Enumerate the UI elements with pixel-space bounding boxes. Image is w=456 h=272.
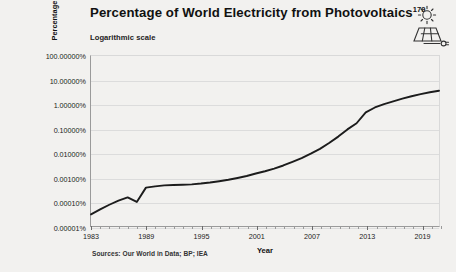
x-axis-minor-tick bbox=[284, 226, 285, 229]
y-axis-tick-label: 0.10000% bbox=[54, 125, 86, 134]
x-axis-minor-tick bbox=[321, 226, 322, 229]
x-axis-minor-tick bbox=[330, 226, 331, 229]
x-axis-major-tick bbox=[202, 226, 203, 230]
x-axis-minor-tick bbox=[358, 226, 359, 229]
x-axis-minor-tick bbox=[211, 226, 212, 229]
x-axis-minor-tick bbox=[109, 226, 110, 229]
x-axis-minor-tick bbox=[100, 226, 101, 229]
x-axis-minor-tick bbox=[183, 226, 184, 229]
x-axis-minor-tick bbox=[119, 226, 120, 229]
plot-area: Percentage of world electricity generati… bbox=[90, 55, 440, 227]
y-axis-tick-label: 100.00000% bbox=[46, 52, 86, 61]
x-axis-minor-tick bbox=[266, 226, 267, 229]
x-axis-minor-tick bbox=[340, 226, 341, 229]
x-axis-minor-tick bbox=[349, 226, 350, 229]
x-axis-tick-label: 1995 bbox=[194, 232, 210, 241]
x-axis-minor-tick bbox=[395, 226, 396, 229]
gridline bbox=[91, 228, 439, 229]
y-axis-tick-label: 1.00000% bbox=[54, 101, 86, 110]
x-axis-minor-tick bbox=[413, 226, 414, 229]
solar-panel-sun-icon bbox=[400, 3, 452, 48]
series-line-chart bbox=[91, 56, 439, 226]
y-axis-tick-label: 0.00010% bbox=[54, 199, 86, 208]
x-axis-minor-tick bbox=[137, 226, 138, 229]
x-axis-major-tick bbox=[257, 226, 258, 230]
x-axis-tick-label: 2019 bbox=[415, 232, 431, 241]
x-axis-minor-tick bbox=[128, 226, 129, 229]
x-axis-minor-tick bbox=[275, 226, 276, 229]
x-axis-minor-tick bbox=[404, 226, 405, 229]
x-axis-tick-label: 2007 bbox=[304, 232, 320, 241]
x-axis-minor-tick bbox=[377, 226, 378, 229]
page-title-text: Percentage of World Electricity from Pho… bbox=[90, 5, 413, 20]
x-axis-minor-tick bbox=[174, 226, 175, 229]
x-axis-minor-tick bbox=[294, 226, 295, 229]
x-axis-minor-tick bbox=[386, 226, 387, 229]
series-line bbox=[91, 91, 439, 215]
x-axis-major-tick bbox=[91, 226, 92, 230]
y-axis-tick-label: 0.00001% bbox=[54, 224, 86, 233]
y-axis-tick-label: 0.00100% bbox=[54, 174, 86, 183]
x-axis-major-tick bbox=[146, 226, 147, 230]
y-axis-tick-label: 0.01000% bbox=[54, 150, 86, 159]
page-title: Percentage of World Electricity from Pho… bbox=[90, 6, 400, 21]
x-axis-minor-tick bbox=[432, 226, 433, 229]
x-axis-minor-tick bbox=[229, 226, 230, 229]
chart-subtitle: Logarithmic scale bbox=[90, 33, 155, 42]
x-axis-major-tick bbox=[367, 226, 368, 230]
y-axis-tick-label: 10.00000% bbox=[50, 76, 86, 85]
sources-note: Sources: Our World in Data; BP; IEA bbox=[92, 250, 208, 257]
y-axis-title: Percentage of world electricity generati… bbox=[47, 0, 61, 53]
x-axis-tick-label: 1989 bbox=[138, 232, 154, 241]
x-axis-minor-tick bbox=[155, 226, 156, 229]
x-axis-major-tick bbox=[312, 226, 313, 230]
x-axis-minor-tick bbox=[441, 226, 442, 229]
x-axis-minor-tick bbox=[238, 226, 239, 229]
x-axis-minor-tick bbox=[303, 226, 304, 229]
x-axis-minor-tick bbox=[220, 226, 221, 229]
x-axis-tick-label: 2001 bbox=[249, 232, 265, 241]
x-axis-tick-label: 1983 bbox=[83, 232, 99, 241]
x-axis-minor-tick bbox=[165, 226, 166, 229]
x-axis-minor-tick bbox=[192, 226, 193, 229]
x-axis-tick-label: 2013 bbox=[359, 232, 375, 241]
chart-page: Percentage of World Electricity from Pho… bbox=[0, 0, 456, 272]
x-axis-major-tick bbox=[423, 226, 424, 230]
x-axis-minor-tick bbox=[248, 226, 249, 229]
